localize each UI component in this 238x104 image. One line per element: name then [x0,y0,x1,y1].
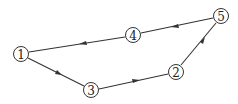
edge-2-5 [181,23,216,65]
node-label: 2 [172,66,180,80]
node-label: 3 [87,84,95,98]
edges [28,18,216,89]
node-4: 4 [126,28,141,43]
arrowhead-3-2 [132,79,140,83]
arrowhead-1-3 [55,70,62,75]
node-label: 1 [17,48,25,62]
node-5: 5 [214,9,229,24]
node-label: 5 [217,10,225,24]
node-1: 1 [14,47,29,62]
node-2: 2 [169,65,184,80]
node-3: 3 [84,83,99,98]
graph-canvas: 1 3 2 5 4 [0,0,238,104]
node-label: 4 [129,29,137,43]
edge-4-1 [29,37,125,52]
